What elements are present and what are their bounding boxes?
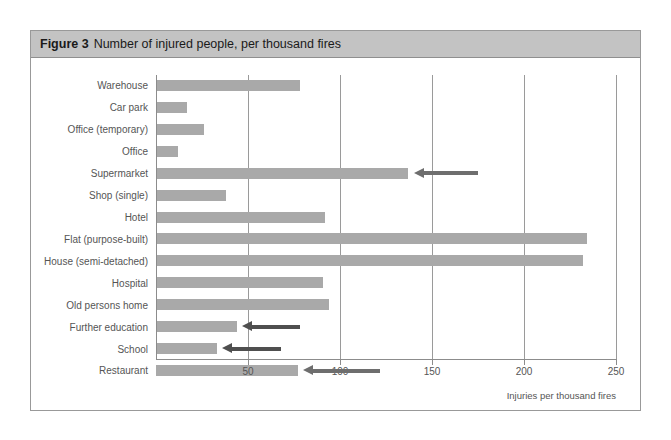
category-label: Hotel xyxy=(125,212,152,223)
category-label: Further education xyxy=(70,322,152,333)
category-label-slot: House (semi-detached) xyxy=(31,250,152,272)
figure-header: Figure 3 Number of injured people, per t… xyxy=(31,31,640,58)
bar-row xyxy=(156,119,616,141)
arrow-shaft xyxy=(423,171,478,175)
category-label-slot: Office xyxy=(31,141,152,163)
category-label: Car park xyxy=(110,102,152,113)
tick-mark-200 xyxy=(524,360,525,365)
arrow-shaft xyxy=(312,369,380,373)
bar-supermarket[interactable] xyxy=(156,168,408,179)
bar-restaurant[interactable] xyxy=(156,365,298,376)
bar-row xyxy=(156,360,616,382)
chart-area: WarehouseCar parkOffice (temporary)Offic… xyxy=(31,58,640,410)
bar-car-park[interactable] xyxy=(156,102,187,113)
figure-panel: Figure 3 Number of injured people, per t… xyxy=(30,30,641,411)
bar-row xyxy=(156,75,616,97)
tick-label-200: 200 xyxy=(516,366,533,377)
tick-mark-250 xyxy=(616,360,617,365)
bar-row xyxy=(156,294,616,316)
category-label: Office xyxy=(122,146,152,157)
bar-row xyxy=(156,141,616,163)
category-label-slot: Office (temporary) xyxy=(31,119,152,141)
bar-hotel[interactable] xyxy=(156,212,325,223)
bar-shop-single[interactable] xyxy=(156,190,226,201)
category-label-slot: Car park xyxy=(31,97,152,119)
category-label: Hospital xyxy=(112,278,152,289)
category-label: Flat (purpose-built) xyxy=(64,234,152,245)
category-label: Warehouse xyxy=(97,80,152,91)
bar-row xyxy=(156,97,616,119)
category-label-slot: Restaurant xyxy=(31,360,152,382)
arrow-shaft xyxy=(251,325,299,329)
annotation-arrow-further-education xyxy=(242,321,299,332)
category-label-slot: Further education xyxy=(31,316,152,338)
bar-further-education[interactable] xyxy=(156,321,237,332)
annotation-arrow-supermarket xyxy=(414,168,478,179)
arrow-shaft xyxy=(231,347,281,351)
bar-warehouse[interactable] xyxy=(156,80,300,91)
tick-mark-50 xyxy=(248,360,249,365)
bar-row xyxy=(156,316,616,338)
bar-hospital[interactable] xyxy=(156,277,323,288)
bar-school[interactable] xyxy=(156,343,217,354)
bar-office[interactable] xyxy=(156,146,178,157)
figure-number: Figure 3 xyxy=(40,37,89,51)
bar-flat-purpose-built[interactable] xyxy=(156,233,587,244)
category-label-slot: Supermarket xyxy=(31,163,152,185)
tick-label-50: 50 xyxy=(242,366,253,377)
annotation-arrow-school xyxy=(222,343,281,354)
category-label-slot: Old persons home xyxy=(31,294,152,316)
category-label: Supermarket xyxy=(91,168,152,179)
tick-label-150: 150 xyxy=(424,366,441,377)
category-label-slot: Hospital xyxy=(31,272,152,294)
category-label-slot: Warehouse xyxy=(31,75,152,97)
category-axis-labels: WarehouseCar parkOffice (temporary)Offic… xyxy=(31,75,152,360)
bar-house-semi-detached[interactable] xyxy=(156,255,583,266)
bar-row xyxy=(156,207,616,229)
bar-row xyxy=(156,228,616,250)
bar-row xyxy=(156,163,616,185)
category-label-slot: Shop (single) xyxy=(31,185,152,207)
category-label: Old persons home xyxy=(66,300,152,311)
category-label: Shop (single) xyxy=(89,190,152,201)
gridline-250 xyxy=(616,75,617,360)
category-label-slot: Hotel xyxy=(31,207,152,229)
category-label: School xyxy=(117,344,152,355)
bar-office-temporary[interactable] xyxy=(156,124,204,135)
bar-row xyxy=(156,272,616,294)
annotation-arrow-restaurant xyxy=(303,365,380,376)
tick-mark-150 xyxy=(432,360,433,365)
category-label-slot: Flat (purpose-built) xyxy=(31,228,152,250)
figure-title: Number of injured people, per thousand f… xyxy=(94,37,341,51)
bar-row xyxy=(156,250,616,272)
plot-area xyxy=(156,75,616,360)
category-label: Office (temporary) xyxy=(68,124,152,135)
tick-label-250: 250 xyxy=(608,366,625,377)
bar-old-persons-home[interactable] xyxy=(156,299,329,310)
category-label: Restaurant xyxy=(99,365,152,376)
bar-row xyxy=(156,185,616,207)
axis-caption: Injuries per thousand fires xyxy=(507,390,616,401)
category-label-slot: School xyxy=(31,338,152,360)
category-label: House (semi-detached) xyxy=(44,256,152,267)
